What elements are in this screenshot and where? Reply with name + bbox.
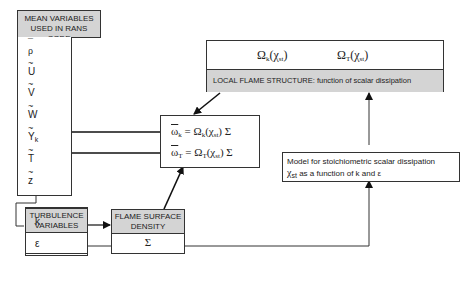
var-v: ~V xyxy=(28,82,35,98)
mean-variables-list: ¯ρ ~U ~V ~W ~Yk ~T ~z xyxy=(17,37,72,196)
omega-t-function: ΩT(χst) xyxy=(337,48,368,63)
var-z: ~z xyxy=(28,170,33,186)
equation-omega-k: ωk = Ωk(χst) Σ xyxy=(171,125,231,139)
var-rho: ¯ρ xyxy=(28,40,33,56)
var-u: ~U xyxy=(28,61,35,77)
local-flame-structure-box: Ωk(χst) ΩT(χst) LOCAL FLAME STRUCTURE: f… xyxy=(206,40,444,92)
scalar-model-line2: χst as a function of k and ε xyxy=(287,167,455,181)
omega-k-function: Ωk(χst) xyxy=(257,48,287,63)
fsd-title-line1: FLAME SURFACE xyxy=(112,212,184,222)
reaction-rate-box: ωk = Ωk(χst) Σ ωT = ΩT(χst) Σ xyxy=(160,115,260,168)
fsd-sigma: Σ xyxy=(112,236,184,248)
equation-omega-t: ωT = ΩT(χst) Σ xyxy=(171,146,233,160)
fsd-title-line2: DENSITY xyxy=(112,222,184,232)
var-w: ~W xyxy=(28,104,37,120)
scalar-model-line1: Model for stoichiometric scalar dissipat… xyxy=(287,156,455,167)
var-t: ~T xyxy=(28,148,34,164)
turbulence-body xyxy=(25,207,88,256)
scalar-dissipation-model-box: Model for stoichiometric scalar dissipat… xyxy=(282,152,460,182)
var-yk: ~Yk xyxy=(28,126,38,143)
local-flame-structure-label: LOCAL FLAME STRUCTURE: function of scala… xyxy=(207,70,443,92)
flame-surface-density-box: FLAME SURFACE DENSITY Σ xyxy=(111,209,185,254)
mean-variables-header: MEAN VARIABLES USED IN RANS CODE xyxy=(17,10,101,38)
mean-variables-title-line1: MEAN VARIABLES xyxy=(18,14,100,24)
